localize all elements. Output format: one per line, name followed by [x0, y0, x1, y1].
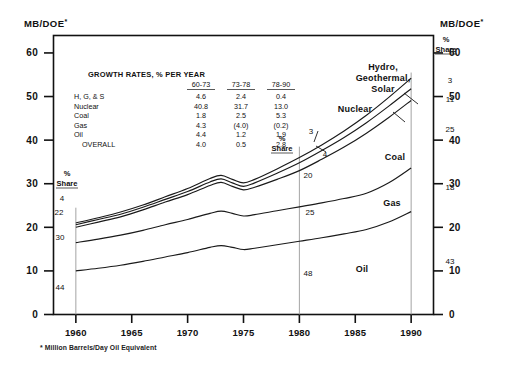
right-axis-title-sup: *	[480, 18, 483, 25]
growth-table-cell: 4.4	[196, 130, 206, 139]
left-axis-title-sup: *	[64, 18, 67, 25]
y-tick-label-right: 10	[449, 265, 461, 276]
share-value-middle: 20	[304, 171, 313, 180]
growth-table-cell: 1.2	[236, 130, 246, 139]
growth-table-row-label: Oil	[74, 130, 83, 139]
series-label: Solar	[371, 84, 395, 94]
y-tick-label-right: 20	[449, 222, 461, 233]
svg-text:MB/DOE*: MB/DOE*	[440, 18, 484, 29]
share-value-right: 43	[446, 257, 455, 266]
growth-table-cell: 4.6	[196, 92, 206, 101]
growth-table-row-label: H, G, & S	[74, 92, 105, 101]
series-label: Geothermal,	[356, 73, 411, 83]
y-tick-label-left: 40	[26, 135, 38, 146]
growth-table-column-header: 73-78	[232, 80, 250, 89]
chart-canvas: MB/DOE* MB/DOE* 0102030405060 0102030405…	[0, 0, 517, 365]
y-tick-label-right: 40	[449, 135, 461, 146]
growth-table-cell: 5.3	[276, 111, 286, 120]
y-tick-label-left: 30	[26, 178, 38, 189]
y-tick-label-left: 10	[26, 265, 38, 276]
x-tick-label: 1970	[177, 327, 199, 338]
energy-mix-chart: MB/DOE* MB/DOE* 0102030405060 0102030405…	[0, 0, 517, 365]
left-axis-title-text: MB/DOE	[24, 18, 64, 29]
share-value-left: 22	[55, 208, 64, 217]
share-value-left: 4	[60, 194, 65, 203]
share-header-share-right: Share	[436, 45, 457, 54]
growth-table-cell: 31.7	[234, 102, 248, 111]
growth-table-cell: 40.8	[194, 102, 208, 111]
x-tick-label: 1990	[400, 327, 422, 338]
growth-table-column-header: 60-73	[192, 80, 210, 89]
share-value-left: 44	[56, 283, 65, 292]
right-axis-title-text: MB/DOE	[440, 18, 480, 29]
series-label: Nuclear	[338, 104, 373, 114]
growth-table-row-label: OVERALL	[82, 140, 115, 149]
share-value-right: 25	[446, 125, 455, 134]
growth-table-cell: 1.9	[276, 130, 286, 139]
left-axis-title: MB/DOE*	[24, 18, 68, 29]
share-value-right: 18	[446, 183, 455, 192]
footnote: * Million Barrels/Day Oil Equivalent	[40, 344, 157, 352]
x-tick-label: 1980	[288, 327, 310, 338]
growth-table-cell: 4.3	[196, 121, 206, 130]
share-value-right: 3	[448, 76, 453, 85]
share-value-middle: 25	[306, 208, 315, 217]
share-value-left: 30	[56, 233, 65, 242]
share-header-share-left: Share	[57, 179, 78, 188]
growth-table-cell: 2.4	[236, 92, 246, 101]
growth-table-row-label: Gas	[74, 121, 88, 130]
growth-table-cell: 0.4	[276, 92, 286, 101]
growth-table-cell: 2.8	[276, 140, 286, 149]
share-value-middle: 48	[304, 269, 313, 278]
share-header-pct-left: %	[64, 169, 71, 178]
y-tick-label-right: 0	[449, 309, 455, 320]
growth-table-cell: (4.0)	[234, 121, 249, 130]
growth-table-column-header: 78-90	[272, 80, 290, 89]
growth-table-cell: 13.0	[274, 102, 288, 111]
share-value-middle: 3	[309, 127, 314, 136]
growth-table-row-label: Coal	[74, 111, 89, 120]
growth-table-cell: 0.5	[236, 140, 246, 149]
chart-background	[0, 0, 517, 365]
growth-table-title: GROWTH RATES, % PER YEAR	[88, 70, 205, 79]
share-header-pct-right: %	[443, 35, 450, 44]
share-value-right: 11	[446, 95, 455, 104]
y-tick-label-left: 0	[32, 309, 38, 320]
series-label: Oil	[356, 264, 369, 274]
growth-table-cell: 4.0	[196, 140, 206, 149]
svg-text:MB/DOE*: MB/DOE*	[24, 18, 68, 29]
growth-table-cell: 2.5	[236, 111, 246, 120]
x-tick-label: 1975	[233, 327, 255, 338]
x-tick-label: 1960	[65, 327, 87, 338]
growth-table-row-label: Nuclear	[74, 102, 99, 111]
series-label: Hydro,	[368, 62, 398, 72]
x-tick-label: 1985	[344, 327, 366, 338]
growth-table-cell: 1.8	[196, 111, 206, 120]
series-label: Gas	[383, 198, 401, 208]
right-axis-title: MB/DOE*	[440, 18, 484, 29]
growth-table-cell: (0.2)	[274, 121, 289, 130]
y-tick-label-left: 50	[26, 91, 38, 102]
series-label: Coal	[385, 152, 405, 162]
y-tick-label-left: 60	[26, 47, 38, 58]
y-tick-label-left: 20	[26, 222, 38, 233]
x-tick-label: 1965	[121, 327, 143, 338]
